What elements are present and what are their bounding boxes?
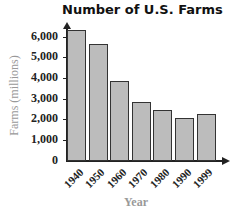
- y-tick-label: 4,000: [22, 70, 58, 85]
- x-axis-label: Year: [124, 195, 148, 210]
- bar-1999: [197, 114, 216, 161]
- bar-1960: [110, 81, 129, 161]
- y-axis-label: Farms (millions): [7, 51, 22, 141]
- bar-1950: [89, 44, 108, 161]
- bar-1990: [175, 118, 194, 161]
- y-tick-label: 2,000: [22, 111, 58, 126]
- bar-1980: [153, 110, 172, 161]
- bar-1940: [67, 30, 86, 161]
- x-axis-arrow-icon: [222, 157, 230, 165]
- y-tick-label: 1,000: [22, 132, 58, 147]
- y-tick-label: 0: [22, 153, 58, 168]
- y-tick-label: 3,000: [22, 91, 58, 106]
- y-tick-label: 6,000: [22, 29, 58, 44]
- chart-title: Number of U.S. Farms: [62, 2, 223, 17]
- bar-1970: [132, 102, 151, 161]
- y-axis-arrow-icon: [63, 22, 71, 29]
- y-tick-label: 5,000: [22, 49, 58, 64]
